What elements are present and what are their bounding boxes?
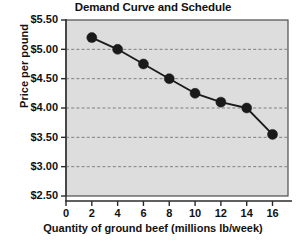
x-axis-tick-label: 16	[266, 207, 278, 219]
data-point-marker[interactable]	[113, 44, 123, 54]
data-point-marker[interactable]	[242, 103, 252, 113]
y-axis-tick-label: $3.50	[30, 131, 58, 143]
y-axis-tick-label: $5.50	[30, 13, 58, 25]
data-point-marker[interactable]	[190, 88, 200, 98]
x-axis-tick-label: 8	[166, 207, 172, 219]
y-axis: $2.50$3.00$3.50$4.00$4.50$5.00$5.50	[30, 13, 66, 201]
x-axis-tick-label: 0	[63, 207, 69, 219]
y-axis-tick-label: $2.50	[30, 189, 58, 201]
x-axis: 0246810121416	[63, 201, 292, 219]
data-point-marker[interactable]	[164, 74, 174, 84]
x-axis-tick-label: 10	[189, 207, 201, 219]
x-axis-tick-label: 4	[115, 207, 122, 219]
x-axis-tick-label: 14	[241, 207, 254, 219]
y-axis-tick-label: $4.50	[30, 72, 58, 84]
data-point-marker[interactable]	[138, 59, 148, 69]
data-point-marker[interactable]	[216, 97, 226, 107]
data-point-marker[interactable]	[268, 129, 278, 139]
y-axis-tick-label: $4.00	[30, 101, 58, 113]
data-point-marker[interactable]	[87, 33, 97, 43]
x-axis-tick-label: 12	[215, 207, 227, 219]
y-axis-tick-label: $5.00	[30, 43, 58, 55]
y-axis-tick-label: $3.00	[30, 160, 58, 172]
chart-figure: Demand Curve and Schedule Price per poun…	[0, 0, 306, 241]
x-axis-tick-label: 2	[89, 207, 95, 219]
plot-canvas: $2.50$3.00$3.50$4.00$4.50$5.00$5.50 0246…	[0, 0, 306, 241]
x-axis-tick-label: 6	[140, 207, 146, 219]
